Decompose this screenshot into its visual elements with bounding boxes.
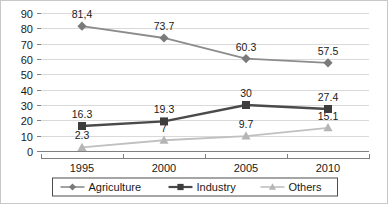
y-axis-tick-label: 60 xyxy=(21,54,33,66)
x-axis-tick-label: 1995 xyxy=(70,162,94,174)
data-point-label: 30 xyxy=(240,87,252,99)
chart-canvas: 010203040506070809019952000200520102.379… xyxy=(1,1,388,204)
y-axis-tick-label: 20 xyxy=(21,115,33,127)
data-point-marker xyxy=(324,105,332,113)
data-point-label: 57.5 xyxy=(318,45,339,57)
series-line-industry xyxy=(82,105,328,126)
y-axis-tick-label: 30 xyxy=(21,100,33,112)
y-axis-tick-label: 40 xyxy=(21,85,33,97)
data-point-label: 81,4 xyxy=(72,8,93,20)
data-point-marker xyxy=(242,101,250,109)
data-point-label: 19.3 xyxy=(154,103,175,115)
legend-label: Industry xyxy=(197,181,237,193)
legend-label: Others xyxy=(289,181,323,193)
legend-label: Agriculture xyxy=(89,181,142,193)
data-point-marker xyxy=(159,33,168,42)
data-point-marker xyxy=(78,122,86,130)
x-axis-tick-label: 2010 xyxy=(316,162,340,174)
y-axis-tick-label: 70 xyxy=(21,39,33,51)
series-others: 2.379.715.1 xyxy=(75,110,339,151)
data-point-marker xyxy=(77,22,86,31)
series-agriculture: 81,473.760.357.5 xyxy=(72,8,339,67)
data-point-marker xyxy=(160,117,168,125)
y-axis-tick-label: 90 xyxy=(21,8,33,20)
data-point-label: 73.7 xyxy=(154,20,175,32)
square-marker-icon xyxy=(177,184,183,190)
y-axis-tick-label: 50 xyxy=(21,69,33,81)
x-axis-tick-label: 2000 xyxy=(152,162,176,174)
line-chart: 010203040506070809019952000200520102.379… xyxy=(0,0,388,204)
y-axis-tick-label: 0 xyxy=(27,146,33,158)
data-point-label: 16.3 xyxy=(72,108,93,120)
y-axis-tick-label: 80 xyxy=(21,23,33,35)
data-point-label: 2.3 xyxy=(75,129,90,141)
y-axis-tick-label: 10 xyxy=(21,131,33,143)
series-industry: 16.319.33027.4 xyxy=(72,87,339,130)
series-line-others xyxy=(82,128,328,148)
data-point-marker xyxy=(323,123,332,131)
data-point-label: 27.4 xyxy=(318,91,339,103)
data-point-label: 9.7 xyxy=(239,118,254,130)
data-point-label: 60.3 xyxy=(236,41,257,53)
data-point-marker xyxy=(241,54,250,63)
x-axis-tick-label: 2005 xyxy=(234,162,258,174)
